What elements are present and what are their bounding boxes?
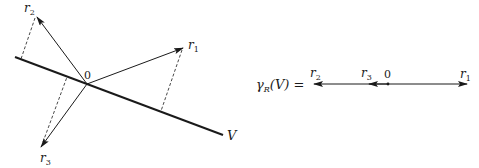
subspace-line-v — [15, 57, 223, 135]
origin-label: 0 — [84, 69, 91, 82]
vector-label-r1-projected: r1 — [460, 67, 471, 83]
vector-label-r1: r1 — [188, 38, 199, 54]
vector-arrow-r1 — [87, 48, 183, 84]
diagram-canvas: 0 V r1 r2 r3 γR(V) = 0 r2 r3 r1 — [0, 0, 479, 168]
vector-label-r2: r2 — [24, 1, 35, 17]
right-diagram: γR(V) = 0 r2 r3 r1 — [256, 66, 471, 94]
vector-label-r3: r3 — [40, 151, 51, 167]
subspace-label-v: V — [227, 128, 238, 143]
origin-dot — [387, 83, 390, 86]
left-diagram: 0 V r1 r2 r3 — [15, 1, 238, 167]
projection-dashed-r3 — [43, 77, 67, 142]
equation-label: γR(V) = — [256, 77, 304, 94]
origin-label-projected: 0 — [384, 68, 391, 81]
vector-arrow-r3 — [41, 84, 87, 147]
vector-label-r2-projected: r2 — [310, 66, 321, 82]
projection-dashed-r2 — [21, 18, 35, 59]
vector-label-r3-projected: r3 — [361, 66, 372, 82]
projection-dashed-r1 — [161, 50, 182, 111]
